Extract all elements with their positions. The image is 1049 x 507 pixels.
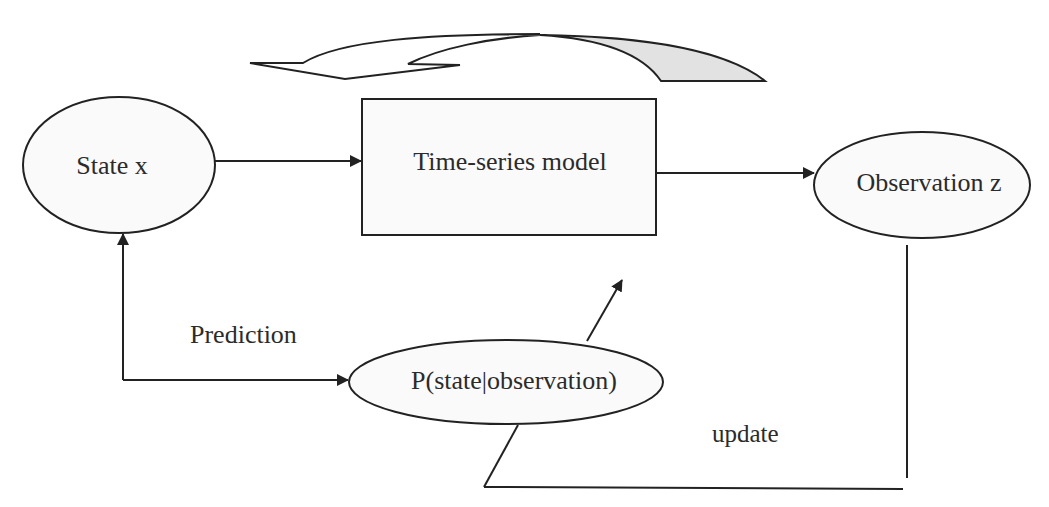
cycle-arrow-icon (250, 34, 765, 81)
node-time-series-model[interactable]: Time-series model (362, 99, 656, 235)
cycle-arrow-head (250, 34, 540, 79)
diagram-canvas: State x Time-series model Observation z … (0, 0, 1049, 507)
edge-label-prediction: Prediction (190, 320, 297, 349)
node-state-x-label: State x (76, 151, 148, 180)
node-observation-z[interactable]: Observation z (814, 132, 1030, 238)
cycle-arrow-tail (540, 35, 765, 81)
node-observation-z-label: Observation z (856, 168, 1001, 197)
node-state-x[interactable]: State x (23, 97, 215, 233)
edge-prediction (123, 234, 348, 380)
edge-label-update: update (712, 420, 779, 447)
node-posterior-label: P(state|observation) (411, 366, 617, 395)
node-time-series-model-label: Time-series model (413, 147, 606, 176)
node-posterior[interactable]: P(state|observation) (349, 340, 663, 424)
